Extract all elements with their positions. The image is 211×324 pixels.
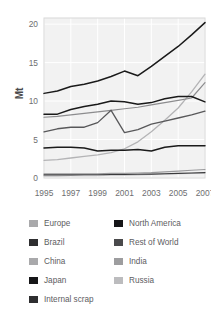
legend-swatch-icon [29, 277, 38, 284]
x-tick-label: 1995 [35, 188, 54, 198]
legend-label: Brazil [44, 238, 64, 247]
legend-swatch-icon [114, 239, 123, 246]
legend-item[interactable]: India [114, 252, 181, 271]
legend-swatch-icon [29, 239, 38, 246]
line-chart: 051015201995199719992001200320052007 Mt [0, 0, 211, 200]
x-tick-label: 1997 [62, 188, 81, 198]
legend-label: North America [129, 219, 181, 228]
legend-item[interactable]: North America [114, 214, 181, 233]
legend-item[interactable]: Japan [29, 271, 94, 290]
y-tick-label: 10 [29, 96, 39, 106]
y-tick-label: 20 [29, 19, 39, 29]
legend-item[interactable]: Europe [29, 214, 94, 233]
legend-column-right: North AmericaRest of WorldIndiaRussia [114, 214, 181, 290]
legend-swatch-icon [114, 277, 123, 284]
legend-column-left: EuropeBrazilChinaJapanInternal scrap [29, 214, 94, 309]
legend-item[interactable]: Russia [114, 271, 181, 290]
y-tick-label: 15 [29, 58, 39, 68]
x-tick-label: 2003 [142, 188, 161, 198]
y-axis-title: Mt [14, 84, 25, 104]
legend-label: Europe [44, 219, 70, 228]
x-tick-label: 2007 [196, 188, 211, 198]
legend-swatch-icon [29, 258, 38, 265]
chart-legend: EuropeBrazilChinaJapanInternal scrap Nor… [0, 214, 211, 324]
legend-item[interactable]: Internal scrap [29, 290, 94, 309]
x-tick-label: 2005 [169, 188, 188, 198]
legend-label: China [44, 257, 65, 266]
chart-canvas: 051015201995199719992001200320052007 [0, 0, 211, 200]
legend-item[interactable]: Rest of World [114, 233, 181, 252]
y-tick-label: 0 [33, 173, 38, 183]
legend-label: Internal scrap [44, 295, 94, 304]
legend-item[interactable]: China [29, 252, 94, 271]
legend-item[interactable]: Brazil [29, 233, 94, 252]
legend-label: India [129, 257, 147, 266]
legend-swatch-icon [29, 296, 38, 303]
x-tick-label: 1999 [88, 188, 107, 198]
legend-label: Rest of World [129, 238, 178, 247]
legend-label: Japan [44, 276, 66, 285]
legend-label: Russia [129, 276, 154, 285]
y-tick-label: 5 [33, 135, 38, 145]
legend-swatch-icon [29, 220, 38, 227]
legend-swatch-icon [114, 258, 123, 265]
chart-page: 051015201995199719992001200320052007 Mt … [0, 0, 211, 324]
legend-swatch-icon [114, 220, 123, 227]
x-tick-label: 2001 [115, 188, 134, 198]
